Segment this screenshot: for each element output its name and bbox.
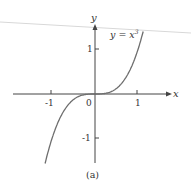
- function-label: y = x3: [109, 28, 139, 40]
- cubic-function-plot: x y -1 1 0 1 -1 y = x3 (a): [0, 0, 191, 193]
- x-tick-label-minus-1: -1: [45, 98, 54, 108]
- x-tick-label-1: 1: [135, 98, 141, 108]
- x-axis-arrow-icon: [166, 92, 172, 97]
- x-axis-label: x: [173, 88, 179, 99]
- y-tick-label-minus-1: -1: [82, 133, 91, 143]
- function-label-exponent: 3: [135, 28, 139, 35]
- x-axis: [13, 90, 172, 97]
- cubic-curve: [45, 32, 143, 164]
- figure-caption: (a): [86, 169, 99, 180]
- y-tick-label-1: 1: [87, 44, 93, 54]
- y-axis-label: y: [90, 12, 97, 23]
- function-label-base: y = x: [109, 29, 135, 40]
- origin-label: 0: [86, 98, 92, 108]
